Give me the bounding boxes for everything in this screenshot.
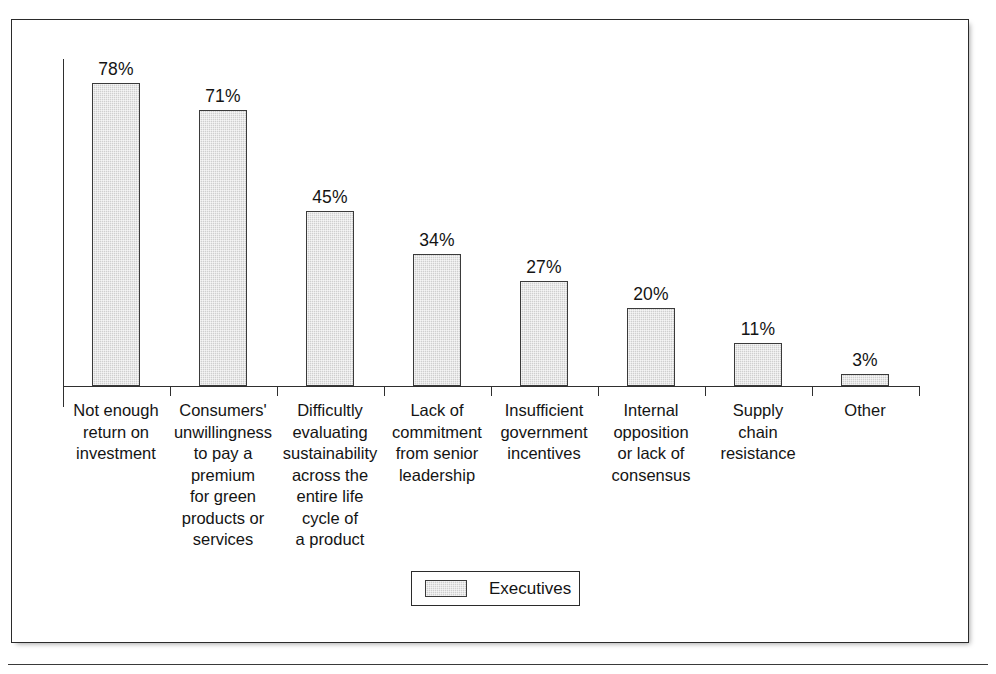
bar-0[interactable] — [92, 83, 140, 386]
bar-value-label-2: 45% — [295, 187, 365, 208]
x-axis-tick — [919, 386, 920, 396]
bar-4[interactable] — [520, 281, 568, 386]
legend-label-executives: Executives — [489, 579, 571, 599]
x-axis-category-label-2: Difficultlyevaluatingsustainabilityacros… — [274, 400, 386, 551]
x-axis-tick — [598, 386, 599, 396]
x-axis-tick — [384, 386, 385, 396]
bar-7[interactable] — [841, 374, 889, 386]
y-axis-line — [63, 59, 64, 407]
x-axis-tick — [277, 386, 278, 396]
x-axis-category-label-7: Other — [809, 400, 921, 422]
bar-value-label-4: 27% — [509, 257, 579, 278]
x-axis-tick — [63, 386, 64, 396]
chart-legend: Executives — [411, 571, 580, 606]
x-axis-tick — [170, 386, 171, 396]
x-axis-tick — [705, 386, 706, 396]
page-bottom-rule — [8, 664, 988, 665]
bar-2[interactable] — [306, 211, 354, 386]
bar-value-label-6: 11% — [723, 319, 793, 340]
bar-3[interactable] — [413, 254, 461, 386]
bar-value-label-3: 34% — [402, 230, 472, 251]
x-axis-category-label-0: Not enoughreturn oninvestment — [60, 400, 172, 465]
bar-1[interactable] — [199, 110, 247, 386]
bar-value-label-5: 20% — [616, 284, 686, 305]
chart-page-frame: 78% 71% 45% 34% 27% 20% 11% 3% Not enoug… — [11, 19, 969, 643]
legend-swatch-executives — [425, 580, 467, 597]
x-axis-category-label-6: Supplychainresistance — [702, 400, 814, 465]
bar-5[interactable] — [627, 308, 675, 386]
x-axis-category-label-5: Internaloppositionor lack ofconsensus — [595, 400, 707, 486]
x-axis-tick — [491, 386, 492, 396]
bar-chart-plot-area: 78% 71% 45% 34% 27% 20% 11% 3% Not enoug… — [12, 20, 970, 644]
bar-value-label-7: 3% — [830, 350, 900, 371]
bar-value-label-0: 78% — [81, 59, 151, 80]
x-axis-category-label-3: Lack ofcommitmentfrom seniorleadership — [381, 400, 493, 486]
bar-6[interactable] — [734, 343, 782, 386]
x-axis-tick — [812, 386, 813, 396]
bar-value-label-1: 71% — [188, 86, 258, 107]
x-axis-category-label-1: Consumers'unwillingnessto pay apremiumfo… — [167, 400, 279, 551]
x-axis-category-label-4: Insufficientgovernmentincentives — [488, 400, 600, 465]
